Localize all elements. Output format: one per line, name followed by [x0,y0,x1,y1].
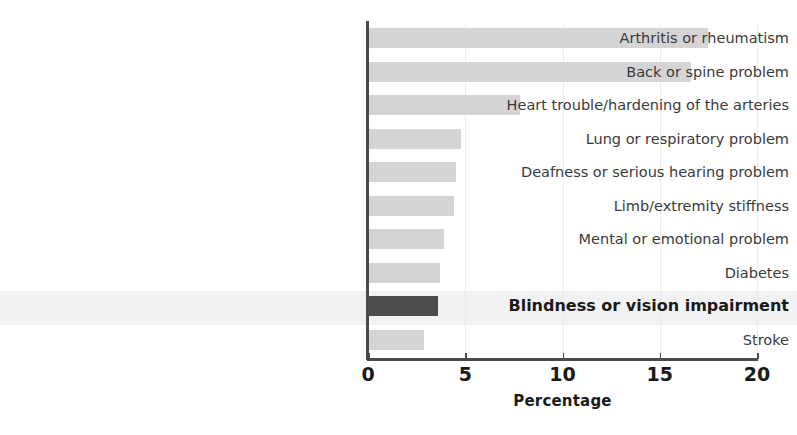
x-tick-label: 0 [338,363,398,385]
category-label: Limb/extremity stiffness [437,196,797,216]
x-tick-20 [757,353,759,359]
y-axis-line [366,21,369,360]
x-tick-5 [465,353,467,359]
bar-chart: Arthritis or rheumatismBack or spine pro… [0,0,797,435]
category-label: Back or spine problem [437,62,797,82]
x-tick-10 [563,353,565,359]
bar [368,330,424,350]
x-axis-title: Percentage [368,392,757,410]
x-tick-15 [660,353,662,359]
bar [368,263,440,283]
category-label: Mental or emotional problem [437,229,797,249]
category-label: Heart trouble/hardening of the arteries [437,95,797,115]
category-label: Arthritis or rheumatism [437,28,797,48]
x-tick-label: 20 [727,363,787,385]
bar [368,296,438,316]
category-label: Blindness or vision impairment [437,296,797,316]
x-tick-label: 5 [435,363,495,385]
category-label: Diabetes [437,263,797,283]
x-tick-label: 15 [630,363,690,385]
category-label: Lung or respiratory problem [437,129,797,149]
x-tick-0 [368,353,370,359]
category-label: Deafness or serious hearing problem [437,162,797,182]
x-tick-label: 10 [533,363,593,385]
bar [368,229,444,249]
category-label: Stroke [437,330,797,350]
